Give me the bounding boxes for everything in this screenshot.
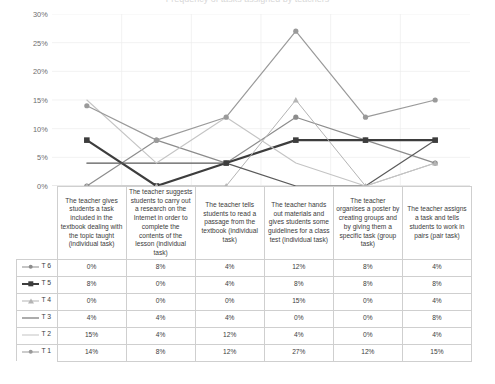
table-cell: 0% <box>57 259 126 276</box>
legend-marker-circle-icon <box>29 264 34 269</box>
table-cell: 4% <box>195 259 264 276</box>
data-point-t1 <box>433 97 438 102</box>
y-axis-tick: 15% <box>6 96 48 105</box>
legend-label: T 3 <box>39 313 51 322</box>
chart-figure: Frequency of tasks assigned by teachers … <box>0 0 495 384</box>
table-cell: 8% <box>57 276 126 293</box>
table-cell: 8% <box>333 259 402 276</box>
table-cell: 12% <box>333 344 402 361</box>
legend-item-t2[interactable]: T 2 <box>17 327 58 344</box>
legend-entry: T 6 <box>22 262 51 271</box>
legend-entry: T 4 <box>22 296 51 305</box>
table-cell: 0% <box>195 293 264 310</box>
data-table: The teacher gives students a task includ… <box>16 186 472 362</box>
legend-label: T 6 <box>39 262 51 271</box>
legend-item-t5[interactable]: T 5 <box>17 276 58 293</box>
legend-marker-triangle-icon <box>28 298 34 303</box>
legend-entry: T 1 <box>22 347 51 356</box>
table-cell: 0% <box>126 276 195 293</box>
y-axis-tick: 30% <box>6 10 48 19</box>
data-point-t5 <box>223 160 229 166</box>
table-cell: 15% <box>57 327 126 344</box>
legend-swatch-t2-icon <box>22 331 39 339</box>
table-cell: 4% <box>402 327 471 344</box>
data-point-t5 <box>84 137 90 143</box>
legend-swatch-t6-icon <box>22 263 39 271</box>
legend-label: T 4 <box>39 296 51 305</box>
table-cell: 4% <box>264 327 333 344</box>
legend-marker-square-icon <box>28 281 33 286</box>
table-cell: 0% <box>264 310 333 327</box>
table-cell: 4% <box>126 310 195 327</box>
table-cell: 15% <box>264 293 333 310</box>
table-row: T 34%4%4%0%0%8% <box>17 310 472 327</box>
table-cell: 8% <box>333 276 402 293</box>
y-axis-tick: 25% <box>6 38 48 47</box>
table-cell: 8% <box>264 276 333 293</box>
column-header-5: The teacher organises a poster by creati… <box>333 187 402 260</box>
legend-swatch-t3-icon <box>22 314 39 322</box>
data-point-t5 <box>363 137 369 143</box>
table-cell: 4% <box>402 293 471 310</box>
data-point-t1 <box>84 103 89 108</box>
data-point-t6 <box>293 115 298 120</box>
table-cell: 14% <box>57 344 126 361</box>
table-cell: 4% <box>195 310 264 327</box>
legend-item-t6[interactable]: T 6 <box>17 259 58 276</box>
legend-line-icon <box>22 334 39 335</box>
table-cell: 0% <box>57 293 126 310</box>
y-axis-labels: 0%5%10%15%20%25%30% <box>0 14 48 186</box>
y-axis-tick: 10% <box>6 124 48 133</box>
y-axis-tick: 20% <box>6 67 48 76</box>
table-cell: 12% <box>264 259 333 276</box>
table-cell: 4% <box>57 310 126 327</box>
chart-title-cropped: Frequency of tasks assigned by teachers <box>0 0 495 6</box>
data-point-t1 <box>224 115 229 120</box>
table-cell: 4% <box>126 327 195 344</box>
legend-item-t1[interactable]: T 1 <box>17 344 58 361</box>
legend-item-t4[interactable]: T 4 <box>17 293 58 310</box>
table-cell: 8% <box>126 344 195 361</box>
data-point-t1 <box>293 29 298 34</box>
table-cell: 27% <box>264 344 333 361</box>
table-cell: 4% <box>195 276 264 293</box>
column-header-6: The teacher assigns a task and tells stu… <box>402 187 471 260</box>
legend-item-t3[interactable]: T 3 <box>17 310 58 327</box>
table-cell: 12% <box>195 327 264 344</box>
legend-header-spacer <box>17 187 58 260</box>
table-row: T 40%0%0%15%0%4% <box>17 293 472 310</box>
legend-label: T 2 <box>39 330 51 339</box>
legend-entry: T 5 <box>22 279 51 288</box>
plot-canvas <box>52 14 470 186</box>
data-point-t5 <box>432 137 438 143</box>
table-cell: 0% <box>126 293 195 310</box>
table-cell: 8% <box>402 310 471 327</box>
table-cell: 8% <box>402 276 471 293</box>
legend-line-icon <box>22 317 39 318</box>
table-cell: 15% <box>402 344 471 361</box>
y-axis-tick: 5% <box>6 153 48 162</box>
table-row: T 58%0%4%8%8%8% <box>17 276 472 293</box>
legend-label: T 5 <box>39 279 51 288</box>
column-header-4: The teacher hands out materials and give… <box>264 187 333 260</box>
table-cell: 12% <box>195 344 264 361</box>
data-point-t5 <box>293 137 299 143</box>
column-header-2: The teacher suggests students to carry o… <box>126 187 195 260</box>
legend-entry: T 3 <box>22 313 51 322</box>
table-header-row: The teacher gives students a task includ… <box>17 187 472 260</box>
data-table-wrap: The teacher gives students a task includ… <box>0 186 495 382</box>
legend-swatch-t1-icon <box>22 348 39 356</box>
data-point-t1 <box>154 138 159 143</box>
table-cell: 0% <box>333 327 402 344</box>
legend-label: T 1 <box>39 347 51 356</box>
data-point-t1 <box>363 115 368 120</box>
table-row: T 114%8%12%27%12%15% <box>17 344 472 361</box>
series-svg <box>52 14 470 186</box>
table-cell: 0% <box>333 310 402 327</box>
legend-marker-circle-icon <box>29 349 34 354</box>
table-cell: 0% <box>333 293 402 310</box>
legend-swatch-t4-icon <box>22 297 39 305</box>
plot-area: 0%5%10%15%20%25%30% <box>0 14 495 186</box>
legend-swatch-t5-icon <box>22 280 39 288</box>
table-row: T 215%4%12%4%0%4% <box>17 327 472 344</box>
